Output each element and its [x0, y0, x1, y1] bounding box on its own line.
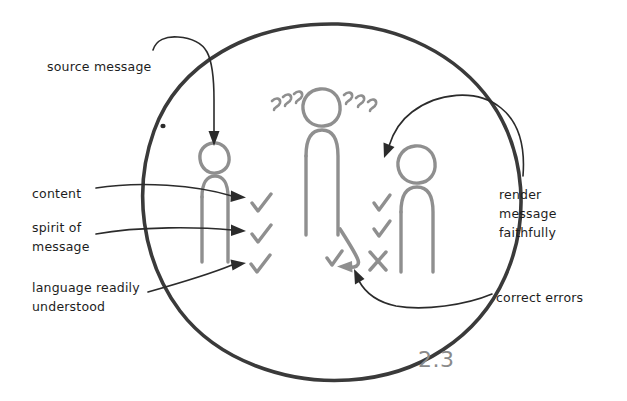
- interpreter-figure: [303, 89, 340, 235]
- check-mark-spirit: [252, 225, 271, 242]
- callout-render-message-faithfully: [384, 95, 524, 176]
- check-mark-render-1: [374, 195, 390, 210]
- diagram-svg: .blk { fill:none; stroke:#2b2b2b; stroke…: [0, 0, 627, 401]
- speaker-figure: [200, 143, 229, 262]
- check-mark-content: [252, 194, 271, 211]
- ink-dot: [160, 124, 165, 128]
- callout-spirit-of-message: [96, 225, 246, 237]
- callout-correct-errors: [354, 269, 492, 308]
- check-mark-render-2: [374, 221, 390, 236]
- cross-mark-error: [370, 252, 386, 270]
- figure-number: 2.3: [418, 347, 455, 372]
- check-mark-corrected: [327, 251, 342, 265]
- check-mark-language: [251, 255, 270, 272]
- boundary-circle: [143, 24, 521, 381]
- callout-language-readily-understood: [148, 260, 246, 293]
- thinking-marks-right: [344, 93, 376, 111]
- thinking-marks-left: [272, 92, 302, 110]
- callout-source-message: [153, 37, 220, 146]
- diagram-canvas: .blk { fill:none; stroke:#2b2b2b; stroke…: [0, 0, 627, 401]
- callout-content: [96, 185, 246, 202]
- listener-figure: [398, 146, 435, 272]
